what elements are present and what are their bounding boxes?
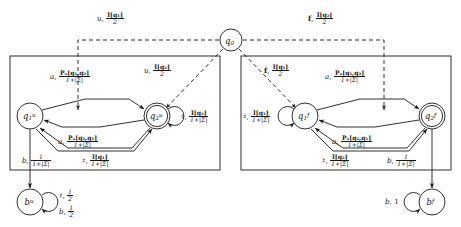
edge-label-sharp-left: ♯, I[q₁]1+|Σ| bbox=[82, 154, 109, 168]
weight-top-left: I[q₁]2 bbox=[106, 12, 124, 26]
weight-den-loop-q2u: 1+|Σ| bbox=[189, 116, 208, 123]
weight-den-b-right: 1+|Σ| bbox=[396, 160, 415, 167]
weight-den-top-left: 2 bbox=[106, 18, 124, 25]
edge-label-b-left: b, 11+|Σ| bbox=[22, 154, 51, 168]
edge-label-bf-loop-b: b, 1 bbox=[385, 198, 399, 205]
weight-bu-loop-b: 12 bbox=[68, 205, 74, 219]
weight-a-top-right: Pₐ[q₁,q₂]1+|Σ| bbox=[334, 70, 365, 84]
node-label-q0: q0 bbox=[225, 36, 234, 46]
weight-den-top-right: 2 bbox=[316, 18, 334, 25]
selfloop-bu bbox=[42, 193, 58, 212]
node-bu-sup: u bbox=[30, 198, 34, 204]
edge-label-a-top-right: a, Pₐ[q₁,q₂]1+|Σ| bbox=[325, 70, 365, 84]
edge-label-bu-loop-sharp: ♯, 12 bbox=[59, 189, 73, 203]
edge-q2u-q1u-upper bbox=[44, 120, 144, 127]
edge-label-sharp-right: ♯, I[q₂]1+|Σ| bbox=[322, 154, 349, 168]
weight-den-sharp-left: 1+|Σ| bbox=[90, 160, 109, 167]
weight-den-diag-left: 2 bbox=[153, 70, 171, 77]
edge-label-b-right: b, 11+|Σ| bbox=[387, 154, 416, 168]
weight-den-bu-loop-b: 2 bbox=[68, 211, 74, 218]
weight-a-top-left: Pₐ[q₁,q₂]1+|Σ| bbox=[59, 70, 90, 84]
node-q2u-sup: u bbox=[159, 112, 163, 118]
edge-label-bu-loop-b: b, 12 bbox=[59, 205, 74, 219]
edge-label-a-top-left: a, Pₐ[q₁,q₂]1+|Σ| bbox=[50, 70, 90, 84]
edge-q1f-q2f bbox=[317, 99, 419, 110]
node-label-q1u: q1u bbox=[23, 111, 36, 121]
node-q2f-sup: f bbox=[434, 112, 436, 118]
weight-den-a-bot-left: 1+|Σ| bbox=[67, 141, 98, 148]
weight-bu-loop-sharp: 12 bbox=[67, 189, 73, 203]
node-q1u-sup: u bbox=[32, 112, 36, 118]
node-label-q2f: q2f bbox=[425, 111, 436, 121]
node-label-q1f: q1f bbox=[298, 111, 309, 121]
selfloop-bf bbox=[404, 192, 420, 211]
edge-q1u-q2u bbox=[42, 99, 144, 110]
weight-a-bot-right: Pₐ[q₂,q₁]1+|Σ| bbox=[341, 135, 372, 149]
node-q0-sub: 0 bbox=[230, 40, 234, 46]
weight-den-b-left: 1+|Σ| bbox=[31, 160, 50, 167]
weight-sharp-left: I[q₁]1+|Σ| bbox=[90, 154, 109, 168]
automaton-diagram: q0 q1u q2u q1f q2f bu bf u, I[q₁]2 f, I[… bbox=[0, 0, 461, 227]
node-label-bf: bf bbox=[427, 197, 434, 207]
weight-b-right: 11+|Σ| bbox=[396, 154, 415, 168]
weight-den-diag-right: 2 bbox=[272, 70, 290, 77]
edge-label-loop-q1f: ♯, I[q₁]1+|Σ| bbox=[243, 110, 270, 124]
edge-label-diag-right: f, I[q₁]2 bbox=[264, 64, 289, 78]
weight-loop-q2u: I[q₂]1+|Σ| bbox=[189, 110, 208, 124]
edge-label-top-left: u, I[q₁]2 bbox=[97, 12, 124, 26]
edge-q2f-q1f-upper bbox=[319, 120, 419, 127]
weight-bf-loop-b: 1 bbox=[394, 197, 399, 206]
weight-den-loop-q1f: 1+|Σ| bbox=[251, 116, 270, 123]
dashed-q0-to-q2u bbox=[166, 49, 223, 108]
edge-label-diag-left: u, I[q₂]2 bbox=[144, 64, 171, 78]
weight-den-a-top-right: 1+|Σ| bbox=[334, 76, 365, 83]
node-label-bu: bu bbox=[25, 197, 34, 207]
weight-den-a-top-left: 1+|Σ| bbox=[59, 76, 90, 83]
edge-label-top-right: f, I[q₂]2 bbox=[308, 12, 333, 26]
edge-label-a-bot-left: a, Pₐ[q₂,q₁]1+|Σ| bbox=[58, 135, 98, 149]
edge-label-a-bot-right: a, Pₐ[q₂,q₁]1+|Σ| bbox=[332, 135, 372, 149]
node-q1f-sup: f bbox=[307, 112, 309, 118]
weight-den-bu-loop-sharp: 2 bbox=[67, 195, 73, 202]
weight-den-a-bot-right: 1+|Σ| bbox=[341, 141, 372, 148]
weight-a-bot-left: Pₐ[q₂,q₁]1+|Σ| bbox=[67, 135, 98, 149]
node-bf-sup: f bbox=[432, 198, 434, 204]
weight-den-sharp-right: 1+|Σ| bbox=[330, 160, 349, 167]
weight-diag-left: I[q₂]2 bbox=[153, 64, 171, 78]
weight-loop-q1f: I[q₁]1+|Σ| bbox=[251, 110, 270, 124]
weight-diag-right: I[q₁]2 bbox=[272, 64, 290, 78]
weight-b-left: 11+|Σ| bbox=[31, 154, 50, 168]
dashed-q0-to-q1f bbox=[239, 49, 296, 108]
edge-label-loop-q2u: ♯, I[q₂]1+|Σ| bbox=[181, 110, 208, 124]
node-label-q2u: q2u bbox=[150, 111, 163, 121]
weight-top-right: I[q₂]2 bbox=[316, 12, 334, 26]
weight-sharp-right: I[q₂]1+|Σ| bbox=[330, 154, 349, 168]
